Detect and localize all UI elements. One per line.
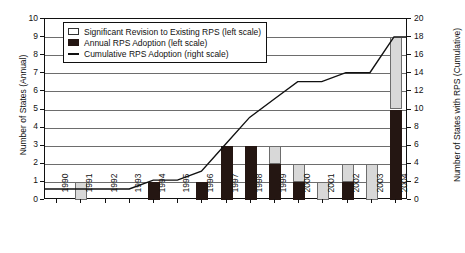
chart-legend: Significant Revision to Existing RPS (le… (63, 22, 267, 63)
y-axis-right-tick-label: 8 (414, 122, 444, 131)
x-axis-tick-label: 1992 (109, 161, 119, 205)
y-axis-right-tick (407, 54, 411, 55)
x-axis-tick-label: 2002 (351, 161, 361, 205)
y-axis-left-tick (40, 90, 44, 91)
x-axis-tick (371, 199, 372, 203)
y-axis-left-tick (40, 72, 44, 73)
y-axis-left-tick-label: 9 (8, 32, 38, 41)
bar-significant-revision (390, 37, 402, 109)
x-axis-tick (322, 199, 323, 203)
x-axis-tick-label: 1996 (205, 161, 215, 205)
legend-item-label: Annual RPS Adoption (left scale) (84, 38, 207, 48)
x-axis-tick (298, 199, 299, 203)
y-axis-left-tick (40, 181, 44, 182)
y-axis-right-tick (407, 18, 411, 19)
legend-item-revision: Significant Revision to Existing RPS (le… (68, 26, 261, 37)
y-axis-left-tick (40, 127, 44, 128)
y-axis-left-tick (40, 36, 44, 37)
x-axis-tick (226, 199, 227, 203)
y-axis-left-tick-label: 6 (8, 86, 38, 95)
y-axis-left-tick-label: 1 (8, 176, 38, 185)
x-axis-tick (105, 199, 106, 203)
y-axis-left-tick (40, 109, 44, 110)
x-axis-tick (129, 199, 130, 203)
gridline (45, 128, 406, 129)
x-axis-tick (347, 199, 348, 203)
legend-item-label: Significant Revision to Existing RPS (le… (84, 27, 261, 37)
y-axis-right-tick-label: 2 (414, 176, 444, 185)
y-axis-right-tick (407, 90, 411, 91)
y-axis-right-tick-label: 0 (414, 195, 444, 204)
y-axis-right-title: Number of States with RPS (Cumulative) (452, 20, 462, 190)
legend-item-cumulative: Cumulative RPS Adoption (right scale) (68, 48, 261, 59)
x-axis-tick-label: 2001 (326, 161, 336, 205)
y-axis-left-tick-label: 2 (8, 158, 38, 167)
legend-item-label: Cumulative RPS Adoption (right scale) (84, 49, 229, 59)
gridline (45, 91, 406, 92)
x-axis-tick-label: 1997 (230, 161, 240, 205)
y-axis-left-tick-label: 8 (8, 50, 38, 59)
filled-square-icon (68, 39, 79, 46)
y-axis-left-tick-label: 5 (8, 104, 38, 113)
open-square-icon (68, 28, 79, 35)
y-axis-left-tick (40, 18, 44, 19)
x-axis-tick (153, 199, 154, 203)
x-axis-tick-label: 1995 (181, 161, 191, 205)
y-axis-left-tick-label: 0 (8, 195, 38, 204)
y-axis-left-tick-label: 3 (8, 140, 38, 149)
x-axis-tick-label: 1993 (133, 161, 143, 205)
x-axis-tick (177, 199, 178, 203)
y-axis-right-tick-label: 16 (414, 50, 444, 59)
y-axis-right-tick-label: 14 (414, 68, 444, 77)
x-axis-tick-label: 2003 (375, 161, 385, 205)
y-axis-right-tick (407, 109, 411, 110)
y-axis-right-tick (407, 145, 411, 146)
y-axis-right-tick-label: 6 (414, 140, 444, 149)
chart-container: Number of States (Annual) Number of Stat… (0, 0, 465, 253)
y-axis-left-tick-label: 4 (8, 122, 38, 131)
y-axis-right-tick-label: 20 (414, 14, 444, 23)
legend-item-annual: Annual RPS Adoption (left scale) (68, 37, 261, 48)
y-axis-left-tick-label: 10 (8, 14, 38, 23)
x-axis-tick-label: 1990 (60, 161, 70, 205)
y-axis-left-tick-label: 7 (8, 68, 38, 77)
y-axis-left-tick (40, 145, 44, 146)
y-axis-right-tick (407, 72, 411, 73)
y-axis-right-tick (407, 36, 411, 37)
x-axis-tick (274, 199, 275, 203)
x-axis-tick (56, 199, 57, 203)
x-axis-tick (80, 199, 81, 203)
y-axis-right-tick-label: 12 (414, 86, 444, 95)
x-axis-tick-label: 2004 (399, 161, 409, 205)
y-axis-left-tick (40, 199, 44, 200)
gridline (45, 110, 406, 111)
line-marker-icon (68, 50, 79, 57)
x-axis-tick-label: 2000 (302, 161, 312, 205)
x-axis-tick-label: 1999 (278, 161, 288, 205)
y-axis-right-tick-label: 10 (414, 104, 444, 113)
y-axis-left-tick (40, 54, 44, 55)
x-axis-tick-label: 1994 (157, 161, 167, 205)
y-axis-right-tick (407, 127, 411, 128)
x-axis-tick (250, 199, 251, 203)
x-axis-tick-label: 1991 (84, 161, 94, 205)
x-axis-tick (395, 199, 396, 203)
x-axis-tick-label: 1998 (254, 161, 264, 205)
y-axis-right-tick-label: 18 (414, 32, 444, 41)
y-axis-right-tick-label: 4 (414, 158, 444, 167)
y-axis-left-tick (40, 163, 44, 164)
gridline (45, 73, 406, 74)
x-axis-tick (201, 199, 202, 203)
